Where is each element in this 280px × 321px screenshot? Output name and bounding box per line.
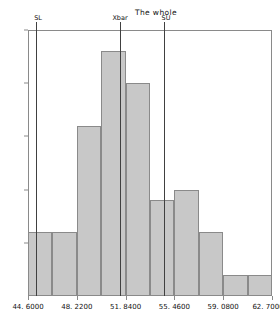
histogram-chart: The whole 0 5 10 15 20 25 44. 6000 48. [0, 0, 280, 321]
x-tick-label: 59. 0800 [208, 303, 239, 311]
x-tick-label: 44. 6000 [12, 303, 43, 311]
histogram-bar [223, 275, 247, 296]
histogram-bar [77, 126, 101, 296]
histogram-bar [126, 83, 150, 296]
reference-label-xbar: Xbar [112, 14, 127, 22]
reference-label-su: SU [162, 14, 171, 22]
histogram-bar [101, 51, 125, 296]
x-tick-mark [272, 296, 273, 300]
reference-line-su [164, 22, 165, 296]
x-tick-mark [28, 296, 29, 300]
histogram-bar [150, 200, 174, 296]
x-tick-mark [223, 296, 224, 300]
histogram-bar [174, 190, 198, 296]
histogram-bar [248, 275, 272, 296]
x-tick-label: 55. 4600 [159, 303, 190, 311]
y-axis: 0 5 10 15 20 25 [0, 0, 28, 321]
histogram-bar [199, 232, 223, 296]
reference-line-xbar [120, 22, 121, 296]
bars-layer [28, 30, 272, 296]
x-tick-label: 51. 8400 [110, 303, 141, 311]
x-tick-mark [126, 296, 127, 300]
x-tick-mark [174, 296, 175, 300]
x-tick-label: 48. 2200 [61, 303, 92, 311]
reference-label-sl: SL [34, 14, 42, 22]
reference-line-sl [36, 22, 37, 296]
histogram-bar [28, 232, 52, 296]
chart-title: The whole [32, 8, 280, 17]
x-tick-label: 62. 7000 [252, 303, 280, 311]
histogram-bar [52, 232, 76, 296]
x-tick-mark [77, 296, 78, 300]
